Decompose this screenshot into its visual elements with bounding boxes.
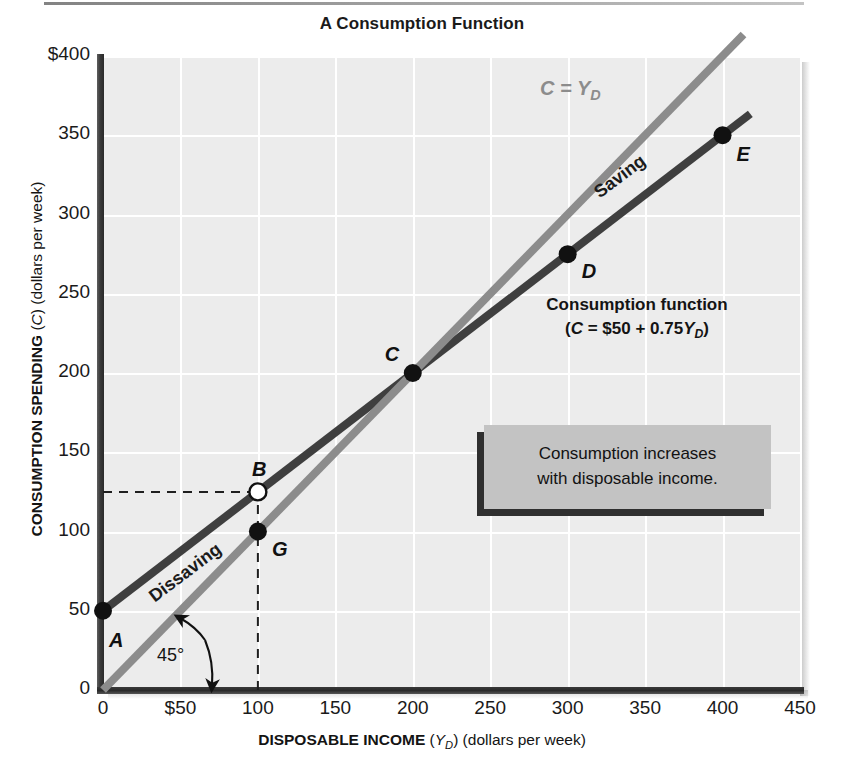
x-axis-tick-labels: 0$50100150200250300350400450 xyxy=(0,697,844,727)
y-tick-label: 0 xyxy=(4,677,90,699)
y-tick-label: 50 xyxy=(4,598,90,620)
y-axis-units: (dollars per week) xyxy=(28,182,45,305)
gridline-vertical xyxy=(800,56,802,690)
gridline-horizontal xyxy=(103,373,800,375)
x-tick-label: 100 xyxy=(218,697,298,719)
x-axis-units: (dollars per week) xyxy=(463,731,586,748)
y-axis-title-main: CONSUMPTION SPENDING xyxy=(28,335,45,537)
annotation-c-equals-yd: C = YD xyxy=(540,77,601,103)
gridline-horizontal xyxy=(103,135,800,137)
y-tick-label: 100 xyxy=(4,519,90,541)
data-point-label-A: A xyxy=(109,629,123,652)
callout-line2: with disposable income. xyxy=(537,469,717,488)
x-tick-label: 0 xyxy=(63,697,143,719)
y-tick-label: 250 xyxy=(4,281,90,303)
y-tick-label: 350 xyxy=(4,122,90,144)
callout-text: Consumption increases with disposable in… xyxy=(537,442,717,491)
callout-box: Consumption increases with disposable in… xyxy=(484,425,771,509)
plot-area xyxy=(103,56,800,690)
data-point-label-B: B xyxy=(252,458,266,481)
chart-title: A Consumption Function xyxy=(0,14,844,34)
gridline-horizontal xyxy=(103,215,800,217)
data-point-label-G: G xyxy=(272,538,288,561)
callout-line1: Consumption increases xyxy=(539,444,717,463)
consumption-fn-line2: (C = $50 + 0.75YD) xyxy=(565,319,709,338)
gridline-horizontal xyxy=(103,56,800,58)
x-tick-label: 450 xyxy=(760,697,840,719)
x-axis-title: DISPOSABLE INCOME (YD) (dollars per week… xyxy=(0,731,844,751)
y-tick-label: $400 xyxy=(4,43,90,65)
y-axis-symbol: C xyxy=(28,314,45,325)
x-tick-label: 400 xyxy=(683,697,763,719)
x-axis-line xyxy=(97,687,804,694)
y-tick-label: 150 xyxy=(4,439,90,461)
y-tick-label: 200 xyxy=(4,360,90,382)
gridline-horizontal xyxy=(103,611,800,613)
annotation-consumption-function: Consumption function (C = $50 + 0.75YD) xyxy=(487,293,787,344)
x-axis-symbol: YD xyxy=(435,731,453,748)
data-point-label-D: D xyxy=(582,260,596,283)
x-tick-label: 250 xyxy=(450,697,530,719)
data-point-label-E: E xyxy=(737,143,750,166)
x-tick-label: $50 xyxy=(140,697,220,719)
x-tick-label: 200 xyxy=(373,697,453,719)
consumption-fn-line1: Consumption function xyxy=(546,295,727,314)
annotation-angle-45: 45° xyxy=(157,645,184,666)
gridline-horizontal xyxy=(103,532,800,534)
y-axis-line xyxy=(97,54,104,694)
x-tick-label: 150 xyxy=(295,697,375,719)
x-tick-label: 300 xyxy=(528,697,608,719)
y-tick-label: 300 xyxy=(4,202,90,224)
x-axis-title-main: DISPOSABLE INCOME xyxy=(258,731,425,748)
y-axis-title: CONSUMPTION SPENDING (C) (dollars per we… xyxy=(28,79,46,639)
data-point-label-C: C xyxy=(385,343,399,366)
consumption-function-figure: A Consumption Function 05010015020025030… xyxy=(0,0,844,766)
x-tick-label: 350 xyxy=(605,697,685,719)
